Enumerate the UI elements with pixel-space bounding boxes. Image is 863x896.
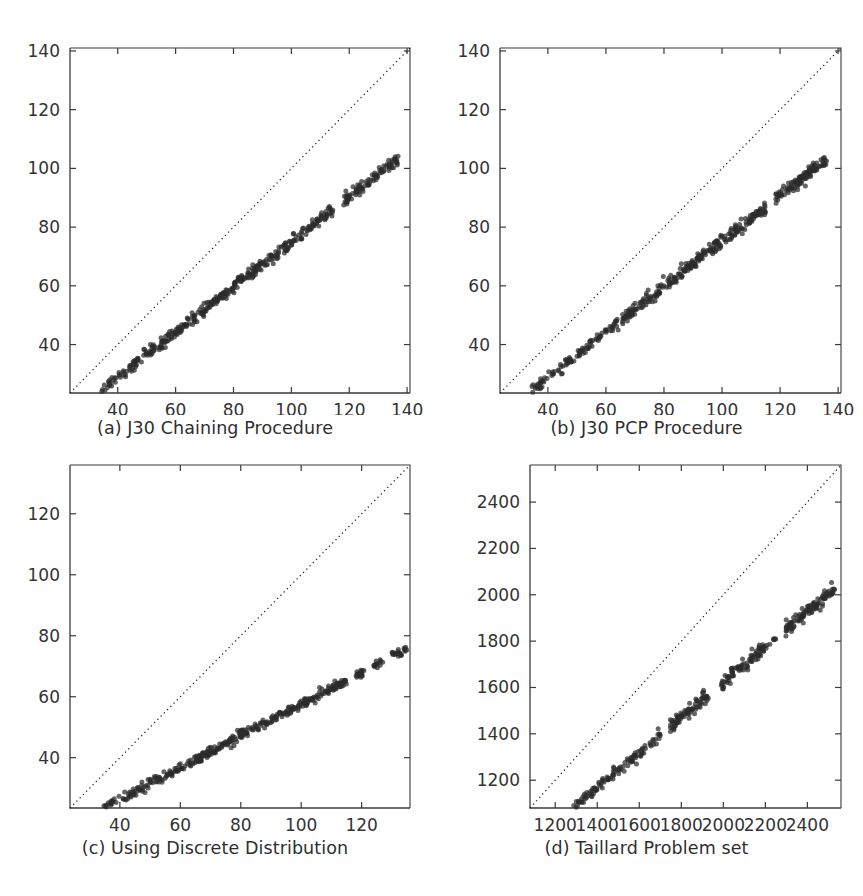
data-point [646,287,651,292]
data-point [123,374,128,379]
panel-b-axes [500,48,841,393]
data-point [678,272,683,277]
xtick-label: 100 [285,815,317,835]
data-point [550,369,555,374]
data-point [659,282,664,287]
ytick-label: 2400 [477,492,520,512]
data-point [757,648,762,653]
data-point [813,606,818,611]
data-point [577,352,582,357]
data-point [585,346,590,351]
data-point [167,329,172,334]
data-point [236,275,241,280]
data-point [192,755,197,760]
data-point [224,291,229,296]
xtick-label: 40 [107,400,129,415]
panel-a-plot: 406080100120140406080100120140 [0,0,430,415]
panel-b-tick-labels: 406080100120140406080100120140 [458,41,855,415]
data-point [739,226,744,231]
data-point [186,317,191,322]
data-point [144,783,149,788]
data-point [693,702,698,707]
panel-b-caption: (b) J30 PCP Procedure [430,418,863,438]
data-point [188,763,193,768]
data-point [152,774,157,779]
data-point [102,383,107,388]
data-point [636,749,641,754]
data-point [610,328,615,333]
data-point [345,199,350,204]
data-point [598,783,603,788]
data-point [317,690,322,695]
data-point [232,743,237,748]
data-point [355,182,360,187]
data-point [404,648,409,653]
data-point [192,320,197,325]
data-point [204,309,209,314]
data-point [339,684,344,689]
data-point [186,758,191,763]
data-point [538,386,543,391]
data-point [327,204,332,209]
data-point [745,664,750,669]
xtick-label: 40 [537,400,559,415]
data-point [367,181,372,186]
data-point [724,680,729,685]
data-point [740,665,745,670]
data-point [590,788,595,793]
data-point [355,672,360,677]
data-point [661,274,666,279]
data-point [789,186,794,191]
data-point [182,764,187,769]
xtick-label: 60 [169,815,191,835]
data-point [201,313,206,318]
data-point [183,322,188,327]
data-point [124,797,129,802]
data-point [582,792,587,797]
ytick-label: 80 [468,217,490,237]
ytick-label: 1400 [477,724,520,744]
data-point [176,769,181,774]
data-point [269,257,274,262]
data-point [657,732,662,737]
data-point [617,766,622,771]
data-point [276,249,281,254]
data-point [540,378,545,383]
data-point [612,769,617,774]
panel-c-tick-labels: 406080100120406080100120 [28,504,378,835]
data-point [810,168,815,173]
data-point [262,725,267,730]
data-point [725,674,730,679]
xtick-label: 2000 [702,815,745,835]
data-point [282,242,287,247]
data-point [296,233,301,238]
data-point [569,359,574,364]
data-point [221,741,226,746]
data-point [387,164,392,169]
data-point [331,687,336,692]
data-point [216,747,221,752]
ytick-label: 100 [458,158,490,178]
data-point [602,779,607,784]
data-point [269,253,274,258]
panel-a-tick-labels: 406080100120140406080100120140 [28,41,424,415]
data-point [624,313,629,318]
data-point [720,683,725,688]
data-point [807,173,812,178]
xtick-label: 1200 [534,815,577,835]
data-point [163,334,168,339]
data-point [757,643,762,648]
data-point [762,209,767,214]
ytick-label: 120 [28,504,60,524]
data-point [291,238,296,243]
ytick-label: 60 [38,276,60,296]
data-point [740,656,745,661]
data-point [701,690,706,695]
panel-a: 406080100120140406080100120140 (a) J30 C… [0,0,430,415]
panel-c-points [101,645,409,810]
data-point [667,277,672,282]
data-point [698,700,703,705]
data-point [288,711,293,716]
data-point [595,332,600,337]
ytick-label: 80 [38,217,60,237]
